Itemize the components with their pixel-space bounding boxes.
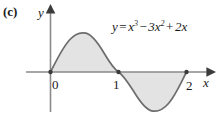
- equation-term2-exponent: 2: [161, 19, 165, 28]
- equation-plus: +: [165, 19, 175, 34]
- equation-lhs: y: [112, 19, 118, 34]
- root-marker-0: [48, 70, 52, 74]
- equation-annotation: y=x3−3x2+2x: [112, 20, 187, 33]
- x-tick-label-2: 2: [186, 79, 193, 92]
- equation-term3: 2x: [175, 19, 187, 34]
- root-marker-1: [116, 70, 120, 74]
- figure-container: (c) y x 0 1 2 y=x3−3x2+2x: [0, 0, 222, 113]
- equation-minus: −: [138, 19, 148, 34]
- plot-area: [0, 0, 222, 113]
- equation-equals: =: [118, 19, 128, 34]
- part-label: (c): [3, 5, 17, 18]
- x-tick-label-1: 1: [113, 78, 120, 91]
- x-tick-label-0: 0: [52, 78, 59, 91]
- root-marker-2: [184, 70, 188, 74]
- x-axis-label: x: [203, 76, 209, 89]
- y-axis-label: y: [38, 6, 44, 19]
